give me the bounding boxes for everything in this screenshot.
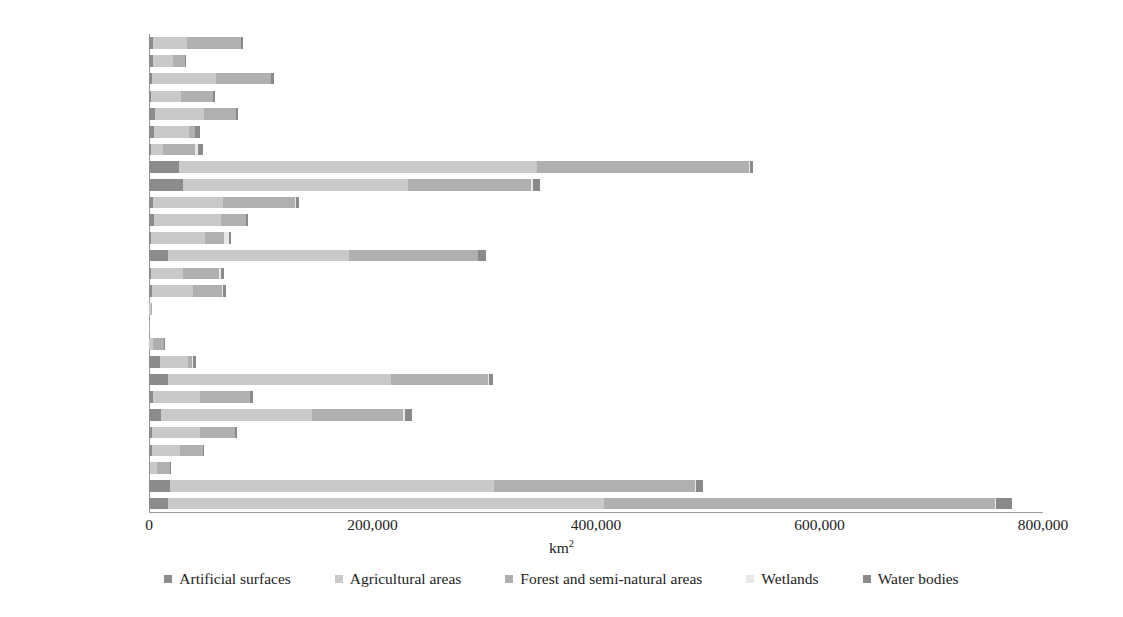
- chart-row: Italy: [149, 246, 1043, 265]
- bar-segment: [152, 427, 200, 439]
- bar-segment: [170, 480, 494, 492]
- bar-segment: [149, 179, 183, 191]
- bar-segment: [168, 250, 349, 262]
- stacked-bar: [149, 374, 494, 386]
- chart-row: Germany: [149, 176, 1043, 195]
- stacked-bar: [149, 462, 171, 474]
- bar-segment: [193, 285, 222, 297]
- chart-legend: Artificial surfacesAgricultural areasFor…: [0, 570, 1123, 588]
- bar-segment: [150, 462, 157, 474]
- bar-segment: [604, 498, 995, 510]
- bar-segment: [152, 285, 193, 297]
- legend-item[interactable]: Water bodies: [863, 570, 959, 588]
- stacked-bar: [149, 427, 237, 439]
- bar-segment: [246, 214, 248, 226]
- legend-label: Forest and semi-natural areas: [520, 570, 702, 588]
- chart-row: Denmark: [149, 123, 1043, 142]
- stacked-bar: [149, 55, 186, 67]
- x-axis-title-text: km2: [549, 539, 574, 556]
- chart-row: Lithuania: [149, 282, 1043, 301]
- chart-row: Spain: [149, 477, 1043, 496]
- bar-segment: [173, 55, 184, 67]
- bar-segment: [154, 214, 221, 226]
- bar-segment: [180, 445, 202, 457]
- bar-segment: [205, 232, 224, 244]
- legend-label: Artificial surfaces: [179, 570, 290, 588]
- chart-row: Greece: [149, 193, 1043, 212]
- legend-swatch-icon: [746, 575, 754, 583]
- chart-row: Slovenia: [149, 459, 1043, 478]
- stacked-bar: [149, 409, 412, 421]
- bar-segment: [185, 55, 186, 67]
- bar-segment: [391, 374, 487, 386]
- bar-segment: [187, 37, 241, 49]
- bar-segment: [157, 462, 170, 474]
- chart-row: Czech Republic: [149, 105, 1043, 124]
- legend-item[interactable]: Wetlands: [746, 570, 818, 588]
- bar-segment: [151, 268, 183, 280]
- stacked-bar: [149, 126, 200, 138]
- bar-segment: [408, 179, 531, 191]
- bar-segment: [149, 356, 160, 368]
- stacked-bar: [149, 144, 203, 156]
- bar-segment: [151, 232, 205, 244]
- legend-label: Agricultural areas: [350, 570, 461, 588]
- bar-segment: [216, 73, 271, 85]
- bar-segment: [160, 356, 188, 368]
- bar-segment: [153, 55, 173, 67]
- stacked-bar: [149, 232, 231, 244]
- x-axis-line: [149, 512, 1043, 513]
- stacked-bar: [149, 498, 1012, 510]
- stacked-bar: [149, 108, 238, 120]
- bar-segment: [149, 374, 168, 386]
- stacked-bar: [149, 338, 165, 350]
- legend-item[interactable]: Artificial surfaces: [164, 570, 290, 588]
- bar-segment: [200, 391, 250, 403]
- bar-segment: [200, 427, 235, 439]
- bar-segment: [223, 285, 226, 297]
- bar-segment: [235, 427, 237, 439]
- chart-row: Estonia: [149, 140, 1043, 159]
- bar-segment: [312, 409, 403, 421]
- chart-row: Netherlands: [149, 353, 1043, 372]
- legend-item[interactable]: Forest and semi-natural areas: [505, 570, 702, 588]
- bar-segment: [149, 250, 168, 262]
- bar-segment: [154, 126, 189, 138]
- stacked-bar: [149, 445, 204, 457]
- chart-row: Serbia: [149, 423, 1043, 442]
- stacked-bar: [149, 480, 703, 492]
- legend-item[interactable]: Agricultural areas: [335, 570, 461, 588]
- chart-row: Romania: [149, 406, 1043, 425]
- chart-row: France: [149, 158, 1043, 177]
- chart-row: Austria: [149, 34, 1043, 53]
- chart-row: Poland: [149, 370, 1043, 389]
- bar-segment: [750, 161, 753, 173]
- x-tick-label: 600,000: [794, 516, 844, 534]
- chart-row: Turkey: [149, 494, 1043, 513]
- bar-segment: [696, 480, 703, 492]
- bar-segment: [153, 197, 222, 209]
- bar-segment: [151, 91, 181, 103]
- stacked-bar: [149, 356, 196, 368]
- chart-row: Bulgaria: [149, 69, 1043, 88]
- bar-segment: [494, 480, 695, 492]
- bar-segment: [221, 268, 224, 280]
- chart-row: Luxembourg: [149, 300, 1043, 319]
- bar-segment: [149, 498, 168, 510]
- bar-segment: [996, 498, 1012, 510]
- stacked-bar: [149, 285, 226, 297]
- bar-segment: [221, 214, 246, 226]
- stacked-bar: [149, 91, 215, 103]
- bar-segment: [168, 374, 392, 386]
- bar-segment: [149, 409, 161, 421]
- bar-segment: [349, 250, 478, 262]
- bar-segment: [296, 197, 299, 209]
- x-tick-label: 0: [145, 516, 153, 534]
- stacked-bar: [149, 37, 243, 49]
- stacked-bar: [149, 197, 299, 209]
- chart-row: Hungary: [149, 211, 1043, 230]
- bar-segment: [179, 161, 537, 173]
- stacked-bar: [149, 214, 248, 226]
- bar-segment: [151, 144, 163, 156]
- bar-segment: [229, 232, 231, 244]
